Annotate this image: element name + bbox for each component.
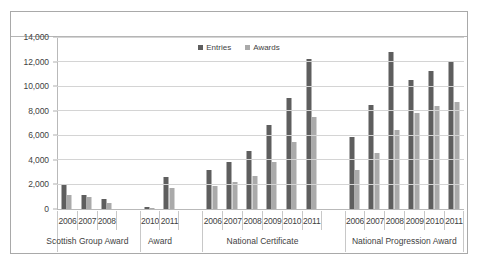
- bar-awards[interactable]: [414, 113, 419, 209]
- x-axis-group-label: Award: [140, 230, 180, 252]
- bar-awards[interactable]: [312, 117, 317, 209]
- bar-awards[interactable]: [87, 197, 92, 209]
- bar-awards[interactable]: [272, 162, 277, 209]
- x-axis-year-label: 2008: [242, 211, 262, 230]
- bar-awards[interactable]: [434, 106, 439, 209]
- plot-area-wrapper: Entries Awards 14,00012,00010,0008,0006,…: [11, 37, 467, 253]
- bar-awards[interactable]: [292, 142, 297, 209]
- x-axis-year-label: 2009: [262, 211, 282, 230]
- y-axis-tick-label: 12,000: [24, 57, 49, 67]
- bar-entries[interactable]: [369, 105, 374, 209]
- x-axis-category-labels: Scottish Group AwardAwardNational Certif…: [57, 230, 464, 252]
- x-axis-group-label: Scottish Group Award: [57, 230, 117, 252]
- x-axis-year-label: 2008: [97, 211, 117, 230]
- bar-entries[interactable]: [81, 195, 86, 209]
- y-axis-tick-label: 6,000: [28, 130, 49, 140]
- bar-entries[interactable]: [61, 184, 66, 209]
- x-axis-baseline: [57, 209, 464, 210]
- x-axis-year-label: 2011: [444, 211, 464, 230]
- bar-entries[interactable]: [266, 125, 271, 209]
- gridline: [57, 159, 464, 160]
- bar-entries[interactable]: [207, 170, 212, 209]
- x-axis-year-label: 2011: [302, 211, 322, 230]
- bar-awards[interactable]: [252, 176, 257, 209]
- y-axis: 14,00012,00010,0008,0006,0004,0002,0000: [11, 37, 53, 209]
- x-axis-year-label: 2009: [404, 211, 424, 230]
- x-axis-year-labels: 2006200720082010201120062007200820092010…: [57, 211, 464, 230]
- x-axis-year-label: 2010: [424, 211, 444, 230]
- gridline: [57, 184, 464, 185]
- bar-awards[interactable]: [454, 102, 459, 210]
- bar-awards[interactable]: [67, 195, 72, 209]
- bar-awards[interactable]: [394, 130, 399, 209]
- x-axis-year-label: 2006: [57, 211, 77, 230]
- y-axis-tick-label: 8,000: [28, 106, 49, 116]
- x-axis-year-label: 2010: [140, 211, 160, 230]
- x-axis-year-label: 2007: [77, 211, 97, 230]
- x-axis-year-label: 2010: [282, 211, 302, 230]
- bar-awards[interactable]: [212, 186, 217, 209]
- bar-awards[interactable]: [374, 153, 379, 210]
- gridline: [57, 86, 464, 87]
- x-axis-year-label: 2008: [384, 211, 404, 230]
- bar-entries[interactable]: [429, 71, 434, 209]
- x-axis-year-label: 2006: [345, 211, 365, 230]
- gridline: [57, 61, 464, 62]
- chart-frame: Entries Awards 14,00012,00010,0008,0006,…: [10, 11, 468, 254]
- bar-awards[interactable]: [355, 170, 360, 209]
- x-axis-year-label: 2006: [202, 211, 222, 230]
- bar-entries[interactable]: [227, 162, 232, 209]
- gridline: [57, 135, 464, 136]
- plot-area: [57, 37, 464, 209]
- y-axis-tick-label: 4,000: [28, 155, 49, 165]
- chart-title-band: [11, 12, 467, 37]
- bar-entries[interactable]: [409, 80, 414, 209]
- x-axis-year-label: 2007: [364, 211, 384, 230]
- y-axis-tick-label: 14,000: [24, 32, 49, 42]
- y-axis-tick-label: 0: [44, 204, 49, 214]
- bar-entries[interactable]: [164, 177, 169, 209]
- x-axis-group-label: National Progression Award: [345, 230, 464, 252]
- chart-title: [11, 12, 467, 16]
- y-axis-tick-label: 10,000: [24, 81, 49, 91]
- bar-entries[interactable]: [349, 137, 354, 209]
- x-axis-year-label: 2011: [159, 211, 179, 230]
- bar-awards[interactable]: [232, 182, 237, 209]
- bar-awards[interactable]: [169, 188, 174, 209]
- bar-entries[interactable]: [306, 59, 311, 210]
- y-axis-tick-label: 2,000: [28, 179, 49, 189]
- x-axis-year-label: 2007: [222, 211, 242, 230]
- gridline: [57, 110, 464, 111]
- bar-entries[interactable]: [389, 52, 394, 209]
- x-axis-group-label: National Certificate: [202, 230, 321, 252]
- gridline: [57, 37, 464, 38]
- bar-entries[interactable]: [286, 98, 291, 209]
